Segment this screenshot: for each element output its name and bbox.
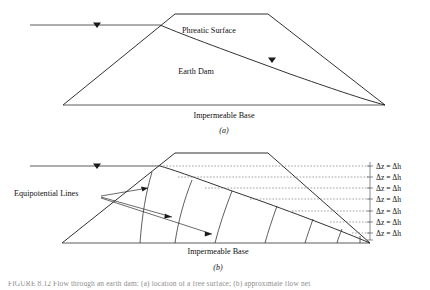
head-drop-label-1: Δz = Δh bbox=[376, 162, 401, 171]
equipotential-line-4 bbox=[265, 206, 277, 243]
head-drop-label-5: Δz = Δh bbox=[376, 207, 401, 216]
earth-dam-flownet-figure: Phreatic Surface Earth Dam Impermeable B… bbox=[0, 0, 430, 290]
panel-a-earth-dam-label: Earth Dam bbox=[178, 67, 214, 76]
panel-b-group: Equipotential Lines Impermeable Base (b)… bbox=[14, 153, 401, 272]
head-drop-label-2: Δz = Δh bbox=[376, 173, 401, 182]
figure-container: Phreatic Surface Earth Dam Impermeable B… bbox=[0, 0, 430, 290]
panel-a-phreatic-surface-label: Phreatic Surface bbox=[182, 26, 236, 35]
panel-b-dam-outline bbox=[62, 153, 370, 243]
panel-a-phreatic-surface-curve bbox=[160, 25, 385, 105]
equipotential-line-5 bbox=[305, 219, 313, 243]
head-drop-label-6: Δz = Δh bbox=[376, 218, 401, 227]
equipotential-leader-line-upper bbox=[101, 188, 148, 196]
figure-caption-text: FIGURE 8.12 Flow through an earth dam: (… bbox=[8, 281, 426, 288]
equipotential-line-1 bbox=[140, 172, 152, 243]
equipotential-line-2 bbox=[175, 180, 192, 243]
panel-b-impermeable-base-label: Impermeable Base bbox=[187, 247, 249, 256]
equipotential-leader-arrow-middle-icon bbox=[164, 214, 172, 219]
equipotential-leader-line-middle bbox=[101, 197, 172, 217]
panel-a-key-label: (a) bbox=[219, 126, 229, 135]
head-drop-label-7: Δz = Δh bbox=[376, 229, 401, 238]
equipotential-line-6 bbox=[337, 229, 342, 243]
figure-caption-strip: FIGURE 8.12 Flow through an earth dam: (… bbox=[0, 281, 430, 290]
panel-b-phreatic-surface-curve bbox=[160, 166, 370, 243]
equipotential-line-3 bbox=[215, 191, 232, 243]
panel-a-group: Phreatic Surface Earth Dam Impermeable B… bbox=[30, 14, 385, 135]
head-drop-label-4: Δz = Δh bbox=[376, 195, 401, 204]
panel-b-key-label: (b) bbox=[213, 263, 223, 272]
panel-a-impermeable-base-label: Impermeable Base bbox=[193, 111, 255, 120]
panel-b-equipotential-lines-label: Equipotential Lines bbox=[14, 189, 78, 198]
phreatic-water-marker-icon bbox=[268, 58, 276, 64]
equipotential-leader-arrow-lower-icon bbox=[205, 232, 212, 237]
equipotential-leader-line-lower bbox=[101, 198, 212, 234]
head-drop-label-3: Δz = Δh bbox=[376, 184, 401, 193]
